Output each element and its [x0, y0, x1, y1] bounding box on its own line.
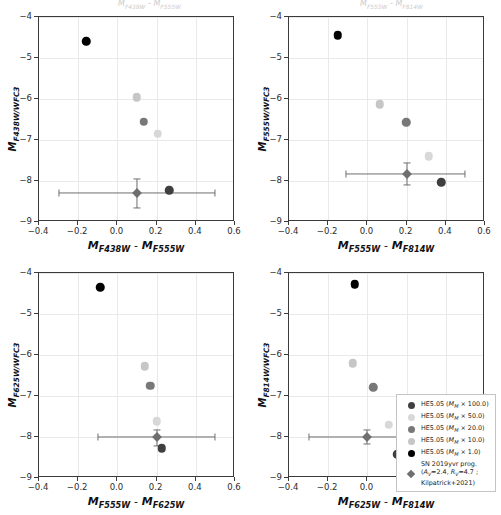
gridline-horizontal — [289, 181, 483, 182]
observation-marker — [362, 432, 372, 442]
x-tick-label: 0.6 — [227, 482, 241, 492]
y-tick — [284, 272, 288, 273]
legend-label: HE5.05 (MM × 100.0) — [421, 401, 489, 409]
x-tick — [234, 221, 235, 225]
legend-marker-m20 — [401, 426, 421, 433]
data-point — [333, 31, 342, 40]
gridline-horizontal — [39, 314, 233, 315]
y-axis-label: MF625W/WFC3 — [7, 342, 21, 407]
gridline-horizontal — [289, 314, 483, 315]
panel-bottom-left: −0.4−0.20.00.20.40.6−9−8−7−6−5−4MF555W -… — [0, 256, 251, 515]
obs-xerror-cap-left — [308, 434, 309, 441]
y-tick — [284, 221, 288, 222]
x-tick-label: 0.0 — [360, 226, 374, 236]
x-tick-label: −0.2 — [67, 482, 88, 492]
x-tick-label: 0.2 — [149, 482, 163, 492]
y-tick-label: −5 — [264, 308, 282, 318]
x-tick-label: 0.4 — [438, 226, 452, 236]
x-tick-label: −0.4 — [28, 482, 49, 492]
y-axis-label: MF555W/WFC3 — [257, 86, 271, 151]
panel-bottom-right: −0.4−0.20.00.20.40.6−9−8−7−6−5−4MF625W -… — [250, 256, 501, 515]
legend-label: HE5.05 (MM × 20.0) — [421, 425, 485, 433]
y-tick — [34, 272, 38, 273]
data-point — [140, 117, 149, 126]
gridline-horizontal — [289, 355, 483, 356]
figure-root: MF438W - MF555W MF555W - MF814W −0.4−0.2… — [0, 0, 501, 515]
y-axis-label: MF814W/WFC3 — [257, 342, 271, 407]
gridline-vertical — [117, 17, 118, 220]
observation-marker — [402, 169, 412, 179]
data-point — [153, 130, 162, 139]
y-tick-label: −9 — [264, 216, 282, 226]
x-tick — [327, 477, 328, 481]
observation-marker — [152, 432, 162, 442]
y-tick — [284, 395, 288, 396]
y-axis-label: MF438W/WFC3 — [7, 86, 21, 151]
x-tick — [156, 221, 157, 225]
x-axis-label: MF438W - MF555W — [88, 239, 185, 254]
y-tick — [284, 180, 288, 181]
y-tick — [284, 16, 288, 17]
panel-top-left: −0.4−0.20.00.20.40.6−9−8−7−6−5−4MF438W -… — [0, 0, 251, 259]
x-tick — [77, 477, 78, 481]
legend-item[interactable]: HE5.05 (MM × 1.0) — [401, 447, 490, 459]
obs-xerror-cap-left — [345, 170, 346, 177]
legend-label-observation: SN 2019yvr prog.(AV=2.4, RV=4.7 ;Kilpatr… — [421, 460, 478, 487]
x-tick-label: −0.4 — [278, 482, 299, 492]
y-tick-label: −9 — [264, 472, 282, 482]
gridline-horizontal — [289, 273, 483, 274]
legend-marker-observation — [401, 471, 421, 477]
obs-xerror-cap-right — [215, 190, 216, 197]
y-tick — [284, 313, 288, 314]
obs-xerror-cap-right — [465, 170, 466, 177]
x-tick-label: 0.2 — [149, 226, 163, 236]
obs-yerror-cap-top — [403, 163, 410, 164]
x-tick — [38, 221, 39, 225]
x-axis-label: MF625W - MF814W — [338, 495, 435, 510]
y-tick-label: −9 — [14, 216, 32, 226]
data-point — [369, 383, 378, 392]
legend-dot-icon — [408, 414, 415, 421]
data-point — [96, 283, 105, 292]
gridline-horizontal — [289, 58, 483, 59]
legend-item[interactable]: HE5.05 (MM × 20.0) — [401, 423, 490, 435]
legend-dot-icon — [408, 426, 415, 433]
gridline-vertical — [328, 273, 329, 476]
data-point — [157, 444, 166, 453]
obs-xerror-cap-left — [97, 434, 98, 441]
data-point — [141, 362, 150, 371]
y-tick — [34, 395, 38, 396]
x-tick — [38, 477, 39, 481]
x-tick — [77, 221, 78, 225]
gridline-vertical — [196, 273, 197, 476]
y-tick — [34, 139, 38, 140]
legend-label: HE5.05 (MM × 10.0) — [421, 437, 485, 445]
x-tick-label: 0.4 — [188, 226, 202, 236]
y-tick — [34, 98, 38, 99]
legend-item[interactable]: HE5.05 (MM × 50.0) — [401, 411, 490, 423]
gridline-vertical — [117, 273, 118, 476]
legend-dot-icon — [408, 450, 415, 457]
gridline-vertical — [196, 17, 197, 220]
legend-marker-m10 — [401, 438, 421, 445]
x-tick-label: 0.6 — [477, 226, 491, 236]
data-point — [132, 93, 141, 102]
x-tick-label: −0.4 — [28, 226, 49, 236]
legend-item[interactable]: HE5.05 (MM × 100.0) — [401, 399, 490, 411]
y-tick — [34, 354, 38, 355]
legend-item-observation[interactable]: SN 2019yvr prog.(AV=2.4, RV=4.7 ;Kilpatr… — [401, 460, 490, 487]
y-tick-label: −9 — [14, 472, 32, 482]
gridline-vertical — [157, 17, 158, 220]
y-tick — [34, 313, 38, 314]
obs-yerror-cap-top — [153, 429, 160, 430]
y-tick-label: −4 — [264, 11, 282, 21]
data-point — [350, 280, 359, 289]
x-tick-label: −0.2 — [317, 226, 338, 236]
data-point — [146, 382, 155, 391]
y-tick — [34, 57, 38, 58]
legend-item[interactable]: HE5.05 (MM × 10.0) — [401, 435, 490, 447]
legend-label: HE5.05 (MM × 1.0) — [421, 449, 481, 457]
x-tick — [234, 477, 235, 481]
y-tick-label: −8 — [264, 431, 282, 441]
data-point — [402, 118, 411, 127]
